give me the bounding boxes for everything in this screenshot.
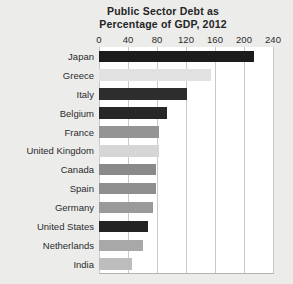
x-tick-label: 240 bbox=[265, 34, 281, 46]
bar-category-label: United States bbox=[0, 221, 94, 232]
bar-category-label: Spain bbox=[0, 183, 94, 194]
bar-category-label: India bbox=[0, 259, 94, 270]
bar bbox=[99, 69, 211, 81]
bar-row: Spain bbox=[0, 179, 293, 198]
bar-chart-figure: Public Sector Debt as Percentage of GDP,… bbox=[0, 0, 293, 284]
bar-row: Canada bbox=[0, 160, 293, 179]
chart-title-line-1: Public Sector Debt as bbox=[78, 5, 248, 18]
bar-row: Italy bbox=[0, 85, 293, 104]
x-tick-label: 80 bbox=[152, 34, 163, 46]
bar-row: France bbox=[0, 123, 293, 142]
bar bbox=[99, 164, 156, 176]
bar-rows: JapanGreeceItalyBelgiumFranceUnited King… bbox=[0, 47, 293, 274]
bar-category-label: United Kingdom bbox=[0, 145, 94, 156]
bar-row: United Kingdom bbox=[0, 142, 293, 161]
bar bbox=[99, 202, 153, 214]
x-tick-label: 120 bbox=[178, 34, 194, 46]
bar bbox=[99, 145, 159, 157]
x-tick-label: 0 bbox=[96, 34, 101, 46]
bar bbox=[99, 107, 167, 119]
bar-category-label: Germany bbox=[0, 202, 94, 213]
bar-row: India bbox=[0, 255, 293, 274]
bar-row: Belgium bbox=[0, 104, 293, 123]
bar-category-label: Italy bbox=[0, 89, 94, 100]
bar bbox=[99, 221, 148, 233]
bar-category-label: Canada bbox=[0, 164, 94, 175]
bar-row: Japan bbox=[0, 47, 293, 66]
chart-title-line-2: Percentage of GDP, 2012 bbox=[78, 18, 248, 31]
bar bbox=[99, 183, 156, 195]
x-axis-tick-labels: 04080120160200240 bbox=[99, 34, 273, 46]
bar bbox=[99, 240, 143, 252]
bar-category-label: France bbox=[0, 127, 94, 138]
bar bbox=[99, 51, 254, 63]
chart-title: Public Sector Debt as Percentage of GDP,… bbox=[78, 5, 248, 30]
bar bbox=[99, 126, 159, 138]
bar-category-label: Greece bbox=[0, 70, 94, 81]
bar-category-label: Netherlands bbox=[0, 240, 94, 251]
bar-row: Greece bbox=[0, 66, 293, 85]
bar-category-label: Belgium bbox=[0, 108, 94, 119]
bar bbox=[99, 258, 132, 270]
bar bbox=[99, 88, 187, 100]
bar-row: United States bbox=[0, 217, 293, 236]
bar-row: Germany bbox=[0, 198, 293, 217]
bar-category-label: Japan bbox=[0, 51, 94, 62]
bar-row: Netherlands bbox=[0, 236, 293, 255]
x-tick-label: 40 bbox=[123, 34, 134, 46]
x-tick-label: 160 bbox=[207, 34, 223, 46]
x-tick-label: 200 bbox=[236, 34, 252, 46]
